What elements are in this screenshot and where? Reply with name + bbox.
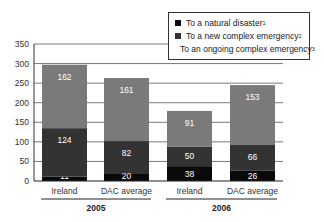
bar-value-label: 50 bbox=[185, 151, 195, 161]
group-label: 2005 bbox=[87, 203, 106, 213]
y-tick-label: 250 bbox=[15, 78, 29, 88]
bar-value-label: 124 bbox=[57, 135, 71, 145]
legend-item-ongoing-complex-emergency: To an ongoing complex emergency3 bbox=[175, 42, 309, 55]
y-tick-label: 350 bbox=[15, 39, 29, 49]
bar-segment bbox=[167, 111, 212, 147]
y-tick-label: 50 bbox=[20, 156, 30, 166]
x-category-label: Ireland bbox=[52, 186, 78, 196]
group-label: 2006 bbox=[212, 203, 231, 213]
bar-value-label: 38 bbox=[185, 169, 195, 179]
y-tick-label: 200 bbox=[15, 98, 29, 108]
chart-legend: To a natural disaster1 To a new complex … bbox=[168, 12, 310, 60]
bar-value-label: 82 bbox=[122, 148, 132, 158]
y-tick-label: 0 bbox=[24, 176, 29, 186]
x-category-label: DAC average bbox=[101, 186, 152, 196]
bar-value-label: 26 bbox=[248, 171, 258, 181]
legend-item-new-complex-emergency: To a new complex emergency2 bbox=[175, 29, 309, 42]
bar-value-label: 153 bbox=[245, 92, 259, 102]
y-tick-label: 100 bbox=[15, 137, 29, 147]
y-tick-label: 300 bbox=[15, 59, 29, 69]
bar-value-label: 161 bbox=[119, 85, 133, 95]
legend-swatch bbox=[175, 20, 181, 26]
bar-value-label: 91 bbox=[185, 118, 195, 128]
x-category-label: DAC average bbox=[227, 186, 278, 196]
legend-item-natural-disaster: To a natural disaster1 bbox=[175, 16, 309, 29]
x-category-label: Ireland bbox=[177, 186, 203, 196]
y-tick-label: 150 bbox=[15, 117, 29, 127]
bar-value-label: 66 bbox=[248, 152, 258, 162]
legend-swatch bbox=[175, 33, 181, 39]
bar-value-label: 162 bbox=[57, 72, 71, 82]
